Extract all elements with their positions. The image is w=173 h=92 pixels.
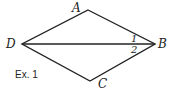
figure-caption: Ex. 1 [15, 69, 38, 80]
angle-label-2: 2 [130, 44, 137, 55]
vertex-label-c: C [98, 77, 107, 91]
vertex-label-a: A [71, 1, 81, 15]
vertex-label-b: B [157, 37, 167, 51]
diagram-figure: A B C D 1 2 Ex. 1 [0, 0, 173, 92]
vertex-label-d: D [5, 37, 16, 51]
quadrilateral-diagram: A B C D 1 2 Ex. 1 [0, 0, 173, 92]
angle-label-1: 1 [131, 33, 137, 44]
